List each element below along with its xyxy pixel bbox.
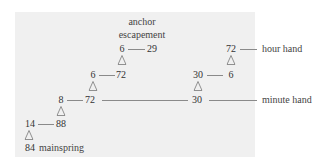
barrel-value: 84 — [25, 143, 35, 153]
second-pinion-value: 14 — [25, 119, 35, 129]
escape-pinion-value: 6 — [120, 44, 125, 54]
connector-line — [67, 100, 83, 101]
triangle-arrow-icon — [194, 81, 203, 91]
triangle-arrow-icon — [227, 55, 236, 65]
minute-hand-leader-line — [209, 100, 257, 101]
connector-line — [99, 75, 115, 76]
anchor-label: anchor — [128, 17, 155, 27]
triangle-arrow-icon — [57, 106, 66, 116]
triangle-arrow-icon — [89, 81, 98, 91]
mainspring-label: mainspring — [39, 143, 84, 153]
escape-wheel-value: 29 — [147, 44, 157, 54]
escapement-label: escapement — [119, 30, 166, 40]
triangle-arrow-icon — [25, 130, 34, 140]
center-pinion-value: 8 — [59, 95, 64, 105]
connector-line — [128, 49, 145, 50]
cannon-value: 30 — [192, 95, 202, 105]
third-pinion-value: 6 — [91, 70, 96, 80]
third-wheel-value: 72 — [116, 70, 126, 80]
minute-wheel-value: 30 — [193, 70, 203, 80]
connector-line — [207, 75, 223, 76]
center-wheel-value: 72 — [85, 95, 95, 105]
arbor-connector-line — [102, 100, 188, 101]
triangle-arrow-icon — [118, 55, 127, 65]
minute-hand-label: minute hand — [262, 95, 312, 105]
connector-line — [38, 124, 54, 125]
hour-wheel-value: 72 — [226, 44, 236, 54]
hour-hand-leader-line — [240, 49, 257, 50]
second-wheel-value: 88 — [56, 119, 66, 129]
minute-pinion-value: 6 — [229, 70, 234, 80]
hour-hand-label: hour hand — [262, 44, 302, 54]
